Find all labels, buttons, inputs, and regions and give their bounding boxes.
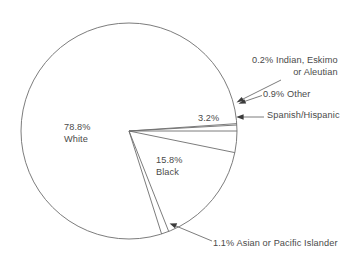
slice-label-spanish-percent: 3.2% <box>198 113 219 125</box>
slice-label-white-name: White <box>64 134 91 146</box>
arrow-head-asian <box>170 223 178 228</box>
wedge-boundary-indian-other <box>129 125 237 131</box>
arrow-head-spanish <box>236 114 243 119</box>
wedge-boundary-spanish-black <box>129 131 235 153</box>
slice-label-other: 0.9% Other <box>263 89 310 101</box>
slice-label-indian-line1: 0.2% Indian, Eskimo <box>252 55 338 65</box>
pie-chart-graphic <box>0 0 364 263</box>
slice-label-black: 15.8% Black <box>156 155 183 178</box>
slice-label-indian-line2: or Aleutian <box>252 67 338 79</box>
slice-label-black-name: Black <box>156 167 183 179</box>
slice-label-indian: 0.2% Indian, Eskimo or Aleutian <box>252 55 338 78</box>
wedge-boundary-asian-white <box>129 131 162 234</box>
leader-line-asian <box>176 226 212 241</box>
slice-label-spanish: Spanish/Hispanic <box>267 110 340 122</box>
slice-label-asian: 1.1% Asian or Pacific Islander <box>213 238 338 250</box>
wedge-boundary-black-asian <box>129 131 169 231</box>
slice-label-white-value: 78.8% <box>64 122 91 132</box>
slice-label-white: 78.8% White <box>64 122 91 145</box>
pie-chart: 78.8% White 15.8% Black 3.2% 0.2% Indian… <box>0 0 364 263</box>
slice-label-black-value: 15.8% <box>156 155 183 165</box>
leader-line-other <box>244 96 262 102</box>
